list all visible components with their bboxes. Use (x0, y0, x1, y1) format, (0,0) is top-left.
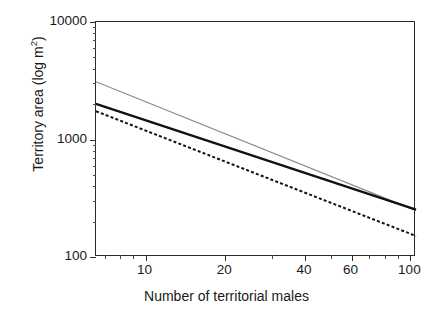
y-axis-minor-tick (93, 151, 97, 152)
y-axis-title: Territory area (log m2) (30, 4, 46, 204)
plot-area (95, 21, 415, 256)
series-line-upper-gray-line (96, 82, 416, 211)
x-axis-major-tick (225, 255, 226, 261)
y-axis-title-exponent: 2 (28, 41, 39, 46)
x-axis-minor-tick (398, 255, 399, 259)
y-axis-tick-label: 100 (64, 249, 87, 263)
x-axis-tick-label: 10 (137, 263, 152, 277)
x-axis-tick-label: 20 (217, 263, 232, 277)
x-axis-minor-tick (331, 255, 332, 259)
y-axis-major-tick (90, 22, 96, 23)
y-axis-minor-tick (93, 222, 97, 223)
chart-figure: 100100010000 Territory area (log m2) 102… (0, 0, 437, 315)
y-axis-minor-tick (93, 57, 97, 58)
y-axis-minor-tick (93, 201, 97, 202)
y-axis-minor-tick (93, 40, 97, 41)
y-axis-minor-tick (93, 175, 97, 176)
x-axis-major-tick (410, 255, 411, 261)
series-canvas (96, 22, 416, 257)
x-axis-tick-labels: 10204060100 (0, 263, 437, 283)
y-axis-minor-tick (93, 83, 97, 84)
y-axis-tick-label: 1000 (57, 132, 87, 146)
x-axis-minor-tick (272, 255, 273, 259)
y-axis-minor-tick (93, 48, 97, 49)
y-axis-minor-tick (93, 186, 97, 187)
x-axis-major-tick (352, 255, 353, 261)
x-axis-minor-tick (369, 255, 370, 259)
y-axis-title-suffix: ) (30, 36, 46, 41)
y-axis-minor-tick (93, 33, 97, 34)
x-axis-title-text: Number of territorial males (144, 288, 309, 304)
y-axis-tick-label: 10000 (49, 14, 87, 28)
y-axis-minor-tick (93, 158, 97, 159)
x-axis-tick-label: 40 (296, 263, 311, 277)
x-axis-minor-tick (133, 255, 134, 259)
x-axis-minor-tick (105, 255, 106, 259)
x-axis-title: Number of territorial males (0, 288, 437, 304)
y-axis-minor-tick (93, 27, 97, 28)
y-axis-title-prefix: Territory area (log m (30, 46, 46, 171)
y-axis-minor-tick (93, 145, 97, 146)
x-axis-minor-tick (120, 255, 121, 259)
x-axis-tick-label: 60 (343, 263, 358, 277)
series-line-lower-dashed-line (96, 111, 416, 236)
series-line-middle-black-line (96, 104, 416, 210)
x-axis-major-tick (146, 255, 147, 261)
y-axis-minor-tick (93, 104, 97, 105)
y-axis-major-tick (90, 257, 96, 258)
y-axis-minor-tick (93, 69, 97, 70)
y-axis-major-tick (90, 140, 96, 141)
x-axis-minor-tick (385, 255, 386, 259)
x-axis-major-tick (305, 255, 306, 261)
x-axis-tick-label: 100 (398, 263, 421, 277)
y-axis-minor-tick (93, 166, 97, 167)
